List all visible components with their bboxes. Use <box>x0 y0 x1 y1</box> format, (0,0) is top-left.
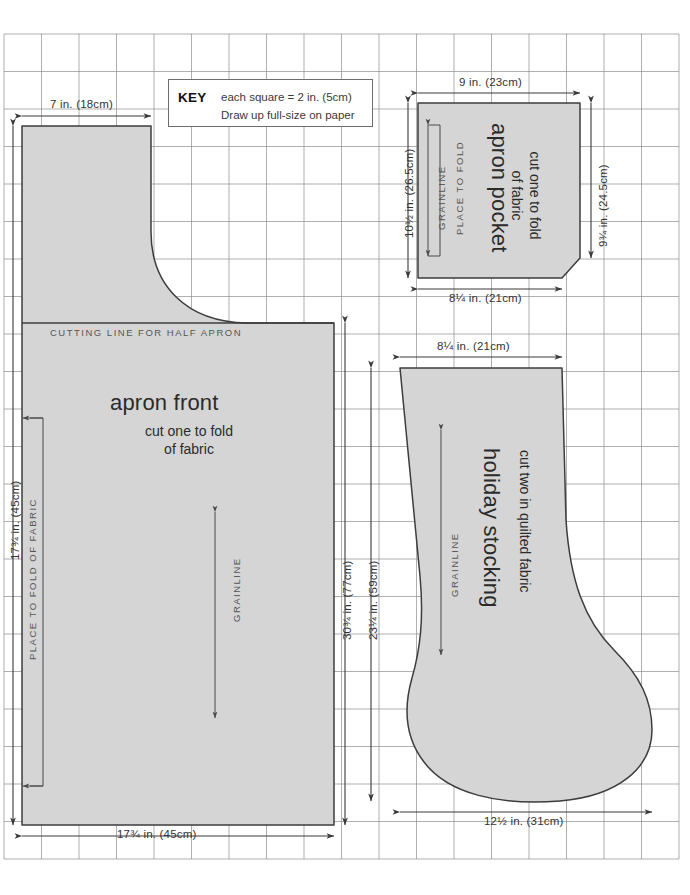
holiday-stocking-subtitle: cut two in quilted fabric <box>516 450 534 650</box>
holiday-stocking-grainline-label: GRAINLINE <box>450 532 460 597</box>
dim-pocket-left-height: 10½ in. (26.5cm) <box>404 149 416 239</box>
holiday-stocking-title: holiday stocking <box>480 448 502 608</box>
dim-apron-front-left-height: 17¾ in. (45cm) <box>10 481 22 561</box>
dim-apron-front-right-outer: 23¼ in. (59cm) <box>368 561 380 641</box>
dim-apron-front-right-inner: 30¾ in. (77cm) <box>342 561 354 641</box>
dim-pocket-bottom-width: 8¼ in. (21cm) <box>449 293 522 305</box>
pattern-canvas: KEY each square = 2 in. (5cm) Draw up fu… <box>0 0 690 895</box>
dim-apron-front-bottom-width: 17¾ in. (45cm) <box>117 829 197 841</box>
apron-front-fold-label: PLACE TO FOLD OF FABRIC <box>28 498 38 660</box>
apron-pocket-title: apron pocket <box>488 123 510 253</box>
apron-pocket-grainline-label: GRAINLINE <box>437 165 447 230</box>
apron-front-subtitle: cut one to fold of fabric <box>119 423 259 458</box>
apron-pocket-subtitle: cut one to fold of fabric <box>508 128 543 263</box>
pattern-drawing <box>0 0 690 895</box>
key-box: KEY each square = 2 in. (5cm) Draw up fu… <box>168 79 373 127</box>
key-instruction-note: Draw up full-size on paper <box>221 109 355 121</box>
dim-pocket-right-height: 9¾ in. (24.5cm) <box>598 164 610 247</box>
pattern-sheet: KEY each square = 2 in. (5cm) Draw up fu… <box>0 0 690 895</box>
dim-stocking-top-width: 8¼ in. (21cm) <box>437 341 510 353</box>
apron-pocket-fold-label: PLACE TO FOLD <box>455 141 465 235</box>
key-heading: KEY <box>178 90 207 105</box>
apron-front-shape <box>22 126 334 825</box>
key-scale-note: each square = 2 in. (5cm) <box>221 91 352 103</box>
apron-front-grainline-label: GRAINLINE <box>232 557 242 622</box>
dim-pocket-top-width: 9 in. (23cm) <box>459 77 522 89</box>
dim-apron-front-top-width: 7 in. (18cm) <box>50 99 113 111</box>
dim-stocking-bottom-width: 12½ in. (31cm) <box>484 816 564 828</box>
apron-front-cutting-line-label: CUTTING LINE FOR HALF APRON <box>50 328 242 338</box>
apron-front-title: apron front <box>110 392 219 414</box>
